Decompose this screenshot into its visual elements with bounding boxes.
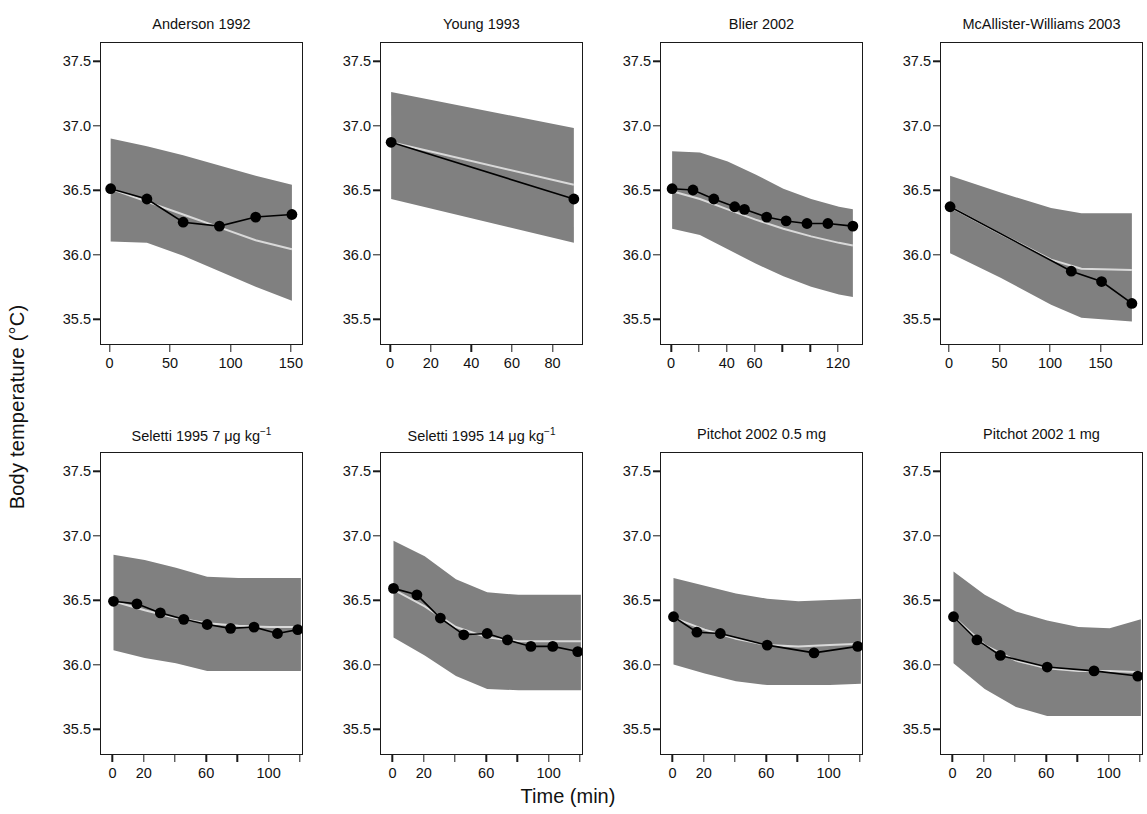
x-axis-tick-mark: [517, 755, 518, 762]
chart-panel: Young 199335.536.036.537.037.5020406080: [380, 42, 583, 345]
series-layer: [381, 43, 583, 345]
data-point-marker: [948, 611, 959, 622]
series-layer: [101, 453, 303, 755]
panel-title: Young 1993: [340, 16, 623, 32]
x-axis-tick-label: 0: [667, 355, 675, 371]
y-axis-tick-label: 37.5: [343, 53, 380, 69]
y-axis-tick-label: 36.5: [623, 592, 660, 608]
series-layer: [101, 43, 303, 345]
data-point-marker: [214, 221, 225, 232]
y-axis-tick-label: 37.5: [63, 53, 100, 69]
data-point-marker: [692, 627, 703, 638]
x-axis-tick-mark: [703, 755, 704, 762]
series-layer: [941, 453, 1143, 755]
x-axis-tick-label: 0: [386, 355, 394, 371]
prediction-interval-band: [950, 176, 1132, 322]
x-axis-tick-mark: [837, 345, 838, 352]
y-axis-tick-label: 37.0: [63, 528, 100, 544]
y-axis-tick-label: 35.5: [903, 721, 940, 737]
data-point-marker: [802, 218, 813, 229]
x-axis-tick-label: 60: [758, 765, 774, 781]
plot-area: [940, 42, 1143, 345]
x-axis-tick-mark: [169, 345, 170, 352]
data-point-marker: [1126, 298, 1137, 309]
y-axis-tick-label: 36.0: [343, 657, 380, 673]
y-axis-tick-label: 37.0: [343, 528, 380, 544]
data-point-marker: [572, 646, 583, 657]
y-axis-tick-label: 35.5: [623, 311, 660, 327]
x-axis-label: Time (min): [0, 785, 1136, 808]
y-axis-tick-label: 36.0: [63, 657, 100, 673]
data-point-marker: [458, 629, 469, 640]
y-axis-tick-label: 37.5: [343, 463, 380, 479]
y-axis-tick-label: 35.5: [623, 721, 660, 737]
x-axis-tick-label: 0: [945, 355, 953, 371]
x-axis-tick-mark: [454, 755, 455, 762]
x-axis-tick-label: 50: [992, 355, 1008, 371]
x-axis-tick-mark: [1139, 755, 1140, 762]
data-point-marker: [502, 635, 513, 646]
series-layer: [661, 43, 863, 345]
x-axis-tick-label: 100: [817, 765, 841, 781]
data-point-marker: [287, 209, 298, 220]
y-axis-tick-label: 37.5: [63, 463, 100, 479]
x-axis-tick-label: 100: [218, 355, 242, 371]
data-point-marker: [762, 640, 773, 651]
y-axis-tick-label: 37.0: [623, 118, 660, 134]
x-axis-tick-mark: [389, 345, 390, 352]
chart-panel: Blier 200235.536.036.537.037.504060120: [660, 42, 863, 345]
y-axis-tick-label: 35.5: [63, 311, 100, 327]
data-point-marker: [547, 641, 558, 652]
y-axis-tick-label: 37.0: [903, 528, 940, 544]
x-axis-tick-label: 0: [668, 765, 676, 781]
data-point-marker: [1066, 266, 1077, 277]
x-axis-tick-mark: [698, 345, 699, 352]
y-axis-tick-label: 36.5: [903, 182, 940, 198]
y-axis-label: Body temperature (°C): [0, 0, 34, 814]
x-axis-tick-mark: [797, 755, 798, 762]
x-axis-tick-label: 150: [279, 355, 303, 371]
x-axis-tick-label: 100: [1097, 765, 1121, 781]
x-axis-tick-mark: [471, 345, 472, 352]
data-point-marker: [1132, 671, 1143, 682]
data-point-marker: [822, 218, 833, 229]
x-axis-tick-label: 60: [478, 765, 494, 781]
x-axis-tick-label: 40: [719, 355, 735, 371]
x-axis-tick-mark: [1045, 755, 1046, 762]
y-axis-tick-label: 37.5: [623, 463, 660, 479]
y-axis-tick-label: 37.0: [903, 118, 940, 134]
data-point-marker: [1096, 276, 1107, 287]
y-axis-tick-label: 36.0: [623, 247, 660, 263]
data-point-marker: [388, 583, 399, 594]
y-axis-tick-label: 37.0: [63, 118, 100, 134]
data-point-marker: [435, 613, 446, 624]
x-axis-tick-label: 100: [537, 765, 561, 781]
x-axis-tick-label: 60: [198, 765, 214, 781]
x-axis-tick-mark: [754, 345, 755, 352]
x-axis-tick-mark: [511, 345, 512, 352]
panel-title: Pitchot 2002 1 mg: [900, 426, 1147, 442]
data-point-marker: [568, 194, 579, 205]
x-axis-tick-mark: [423, 755, 424, 762]
x-axis-tick-mark: [1014, 755, 1015, 762]
x-axis-tick-mark: [392, 755, 393, 762]
y-axis-tick-label: 37.5: [623, 53, 660, 69]
y-axis-tick-label: 36.5: [63, 182, 100, 198]
data-point-marker: [729, 201, 740, 212]
x-axis-tick-label: 20: [423, 355, 439, 371]
y-axis-tick-label: 36.5: [343, 182, 380, 198]
y-axis-tick-label: 36.0: [343, 247, 380, 263]
x-axis-tick-mark: [143, 755, 144, 762]
x-axis-tick-mark: [782, 345, 783, 352]
prediction-interval-band: [393, 541, 580, 691]
y-axis-tick-label: 36.5: [903, 592, 940, 608]
x-axis-tick-mark: [112, 755, 113, 762]
plot-area: [660, 452, 863, 755]
x-axis-tick-mark: [948, 345, 949, 352]
x-axis-tick-mark: [205, 755, 206, 762]
data-point-marker: [668, 611, 679, 622]
data-point-marker: [482, 628, 493, 639]
x-axis-tick-label: 80: [544, 355, 560, 371]
data-point-marker: [412, 589, 423, 600]
